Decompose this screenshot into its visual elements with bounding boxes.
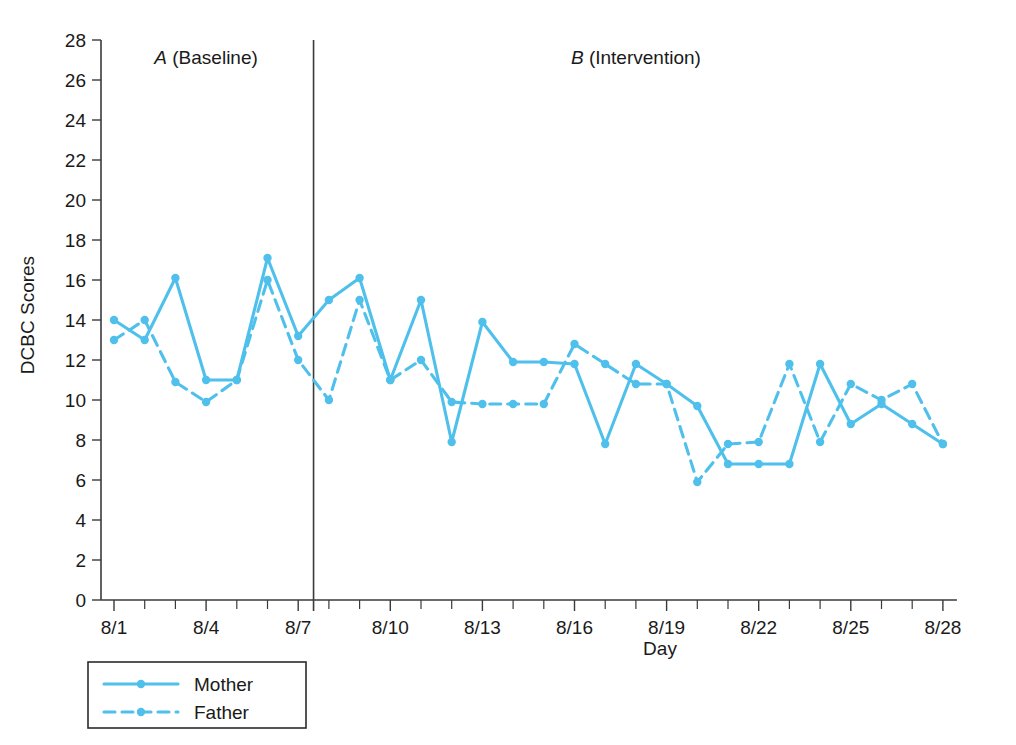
data-point <box>601 360 609 368</box>
x-tick-label: 8/22 <box>740 617 777 638</box>
chart-legend: MotherFather <box>88 662 306 728</box>
dcbc-scores-line-chart: 0246810121416182022242628 8/18/48/78/108… <box>0 0 1016 745</box>
data-point <box>263 254 271 262</box>
x-axis-ticks <box>114 600 943 611</box>
data-point <box>478 400 486 408</box>
legend-label-father: Father <box>194 702 250 723</box>
y-tick-label: 0 <box>75 590 86 611</box>
y-tick-label: 12 <box>65 350 86 371</box>
y-tick-label: 20 <box>65 190 86 211</box>
data-point <box>509 358 517 366</box>
data-point <box>908 380 916 388</box>
x-tick-label: 8/19 <box>648 617 685 638</box>
data-point <box>540 358 548 366</box>
data-point <box>816 438 824 446</box>
legend-marker-mother <box>137 680 145 688</box>
data-point <box>509 400 517 408</box>
data-point <box>632 360 640 368</box>
y-tick-label: 2 <box>75 550 86 571</box>
data-point <box>202 376 210 384</box>
data-point <box>325 296 333 304</box>
data-point <box>601 440 609 448</box>
y-tick-label: 22 <box>65 150 86 171</box>
data-point <box>417 296 425 304</box>
y-tick-label: 26 <box>65 70 86 91</box>
x-tick-label: 8/4 <box>193 617 220 638</box>
data-point <box>755 460 763 468</box>
legend-label-mother: Mother <box>194 674 254 695</box>
data-point <box>325 396 333 404</box>
data-point <box>171 378 179 386</box>
y-tick-label: 16 <box>65 270 86 291</box>
x-tick-label: 8/1 <box>101 617 127 638</box>
data-point <box>233 376 241 384</box>
data-point <box>141 316 149 324</box>
y-axis-title: DCBC Scores <box>17 256 38 374</box>
data-point <box>908 420 916 428</box>
y-tick-label: 28 <box>65 30 86 51</box>
data-point <box>847 380 855 388</box>
chart-figure: 0246810121416182022242628 8/18/48/78/108… <box>0 0 1016 745</box>
y-tick-label: 8 <box>75 430 86 451</box>
data-point <box>693 402 701 410</box>
data-point <box>202 398 210 406</box>
data-point <box>570 360 578 368</box>
phase-label: A (Baseline) <box>153 47 258 68</box>
data-point <box>263 276 271 284</box>
y-tick-label: 18 <box>65 230 86 251</box>
data-point <box>662 380 670 388</box>
x-tick-label: 8/16 <box>556 617 593 638</box>
series-father <box>110 276 947 486</box>
data-point <box>816 360 824 368</box>
data-point <box>171 274 179 282</box>
data-point <box>847 420 855 428</box>
y-tick-label: 4 <box>75 510 86 531</box>
x-axis-title: Day <box>643 638 677 659</box>
x-tick-label: 8/25 <box>832 617 869 638</box>
legend-marker-father <box>137 708 145 716</box>
data-point <box>785 360 793 368</box>
phase-labels: A (Baseline)B (Intervention) <box>153 47 701 68</box>
data-point <box>355 274 363 282</box>
data-point <box>448 398 456 406</box>
data-point <box>448 438 456 446</box>
phase-label: B (Intervention) <box>571 47 701 68</box>
x-tick-label: 8/13 <box>464 617 501 638</box>
data-point <box>355 296 363 304</box>
data-point <box>570 340 578 348</box>
data-point <box>724 440 732 448</box>
data-point <box>540 400 548 408</box>
data-point <box>478 318 486 326</box>
y-tick-label: 10 <box>65 390 86 411</box>
data-point <box>386 376 394 384</box>
data-point <box>724 460 732 468</box>
data-point <box>294 332 302 340</box>
y-axis-ticks <box>92 40 101 600</box>
data-point <box>693 478 701 486</box>
data-point <box>110 336 118 344</box>
data-series-group <box>110 254 947 486</box>
y-tick-label: 6 <box>75 470 86 491</box>
x-axis-tick-labels: 8/18/48/78/108/138/168/198/228/258/28 <box>101 617 962 638</box>
legend-rows: MotherFather <box>104 674 254 723</box>
y-tick-label: 24 <box>65 110 87 131</box>
data-point <box>939 440 947 448</box>
data-point <box>294 356 302 364</box>
data-point <box>417 356 425 364</box>
y-tick-label: 14 <box>65 310 87 331</box>
data-point <box>632 380 640 388</box>
data-point <box>785 460 793 468</box>
data-point <box>110 316 118 324</box>
data-point <box>141 336 149 344</box>
data-point <box>877 396 885 404</box>
data-point <box>755 438 763 446</box>
x-tick-label: 8/10 <box>372 617 409 638</box>
x-tick-label: 8/28 <box>924 617 961 638</box>
x-tick-label: 8/7 <box>285 617 311 638</box>
y-axis-tick-labels: 0246810121416182022242628 <box>65 30 87 611</box>
